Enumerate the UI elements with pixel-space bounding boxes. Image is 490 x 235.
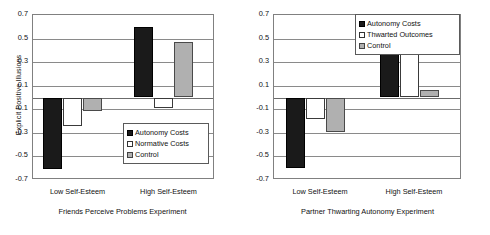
legend-swatch-icon	[127, 152, 133, 158]
panel-caption: Friends Perceive Problems Experiment	[0, 207, 245, 216]
bar-autonomy-costs-high-self-esteem	[134, 27, 153, 98]
y-axis-tick-labels: 0.70.50.30.1-0.1-0.3-0.5-0.7	[2, 14, 28, 179]
y-tick--0.7: -0.7	[15, 175, 28, 183]
y-tick-0.3: 0.3	[259, 57, 269, 65]
y-tick--0.1: -0.1	[256, 104, 269, 112]
bar-control-low-self-esteem	[83, 98, 102, 112]
category-label-0: Low Self-Esteem	[32, 187, 123, 196]
y-tick--0.5: -0.5	[15, 151, 28, 159]
legend-label: Autonomy Costs	[367, 19, 421, 28]
y-tick--0.1: -0.1	[15, 104, 28, 112]
y-tick-0.5: 0.5	[18, 34, 28, 42]
legend-swatch-icon	[127, 130, 133, 136]
bar-normative-costs-high-self-esteem	[154, 98, 173, 108]
panel-caption: Partner Thwarting Autonomy Experiment	[245, 207, 490, 216]
legend-swatch-icon	[127, 141, 133, 147]
gridline-0.5	[33, 39, 213, 40]
legend-label: Normative Costs	[135, 139, 189, 148]
legend-item-autonomy-costs[interactable]: Autonomy Costs	[127, 127, 204, 138]
legend-label: Control	[135, 150, 159, 159]
legend-item-thwarted-outcomes[interactable]: Thwarted Outcomes	[359, 29, 455, 40]
category-label-1: High Self-Esteem	[367, 187, 461, 196]
legend-label: Control	[367, 41, 391, 50]
bar-normative-costs-low-self-esteem	[63, 98, 82, 127]
category-label-0: Low Self-Esteem	[273, 187, 367, 196]
bar-control-high-self-esteem	[420, 90, 439, 98]
legend: Autonomy CostsNormative CostsControl	[123, 123, 209, 164]
legend-item-control[interactable]: Control	[127, 149, 204, 160]
y-tick--0.7: -0.7	[256, 175, 269, 183]
legend-swatch-icon	[359, 21, 365, 27]
bar-autonomy-costs-low-self-esteem	[43, 98, 62, 170]
y-tick-0.7: 0.7	[18, 10, 28, 18]
gridline-0.1	[274, 86, 460, 87]
legend-item-normative-costs[interactable]: Normative Costs	[127, 138, 204, 149]
bar-control-low-self-esteem	[326, 98, 345, 133]
bar-thwarted-outcomes-low-self-esteem	[306, 98, 325, 120]
y-tick--0.3: -0.3	[15, 128, 28, 136]
y-axis-tick-labels: 0.70.50.30.1-0.1-0.3-0.5-0.7	[243, 14, 269, 179]
legend-swatch-icon	[359, 32, 365, 38]
y-tick--0.5: -0.5	[256, 151, 269, 159]
legend: Autonomy CostsThwarted OutcomesControl	[355, 14, 460, 55]
bar-autonomy-costs-low-self-esteem	[286, 98, 305, 169]
legend-item-autonomy-costs[interactable]: Autonomy Costs	[359, 18, 455, 29]
legend-swatch-icon	[359, 43, 365, 49]
y-tick-0.1: 0.1	[259, 81, 269, 89]
category-label-1: High Self-Esteem	[123, 187, 214, 196]
y-tick-0.5: 0.5	[259, 34, 269, 42]
bar-thwarted-outcomes-high-self-esteem	[400, 50, 419, 97]
figure-two-panel-bar-charts: Explicit Positive Illusions 0.70.50.30.1…	[0, 0, 490, 235]
legend-label: Autonomy Costs	[135, 128, 189, 137]
panel-friends-perceive-problems: Explicit Positive Illusions 0.70.50.30.1…	[0, 0, 245, 235]
bar-control-high-self-esteem	[174, 42, 193, 98]
gridline-0.3	[274, 62, 460, 63]
legend-item-control[interactable]: Control	[359, 40, 455, 51]
panel-partner-thwarting-autonomy: 0.70.50.30.1-0.1-0.3-0.5-0.7 Low Self-Es…	[245, 0, 490, 235]
y-tick-0.7: 0.7	[259, 10, 269, 18]
y-tick-0.3: 0.3	[18, 57, 28, 65]
legend-label: Thwarted Outcomes	[367, 30, 433, 39]
y-tick-0.1: 0.1	[18, 81, 28, 89]
y-tick--0.3: -0.3	[256, 128, 269, 136]
